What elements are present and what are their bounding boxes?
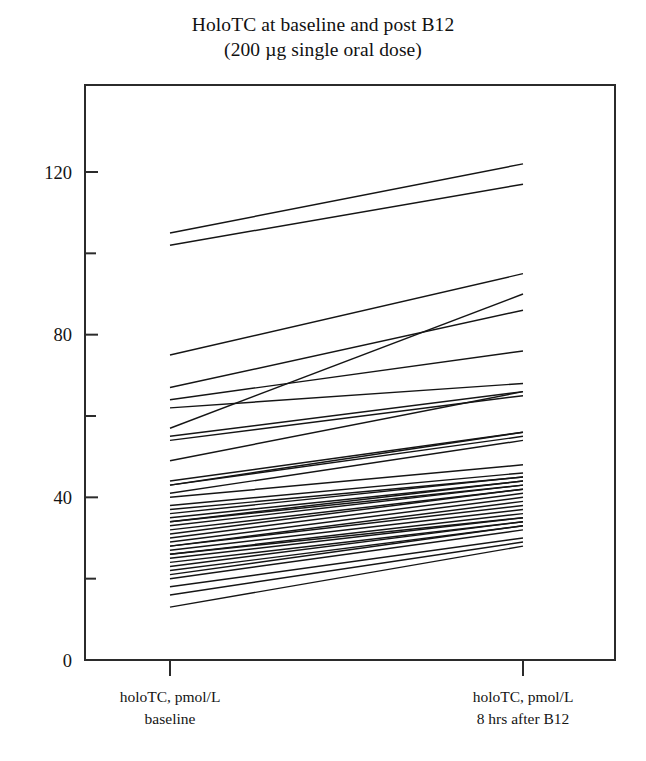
x-axis-left-label-line-1: holoTC, pmol/L <box>120 688 221 705</box>
y-tick-label: 0 <box>63 651 72 671</box>
subject-slope-line <box>170 392 523 437</box>
y-tick-label: 40 <box>54 488 73 508</box>
x-axis-right-label-line-2: 8 hrs after B12 <box>477 710 570 727</box>
subject-slope-line <box>170 440 523 493</box>
subject-slope-line <box>170 164 523 233</box>
slope-chart-plot: 04080120 holoTC, pmol/L baseline holoTC,… <box>0 0 646 761</box>
y-axis-ticks <box>85 172 98 660</box>
series-lines <box>170 164 523 607</box>
subject-slope-line <box>170 538 523 587</box>
subject-slope-line <box>170 546 523 607</box>
plot-frame <box>85 85 615 660</box>
subject-slope-line <box>170 184 523 245</box>
subject-slope-line <box>170 383 523 407</box>
subject-slope-line <box>170 530 523 579</box>
chart-figure: HoloTC at baseline and post B12 (200 µg … <box>0 0 646 761</box>
y-tick-label: 120 <box>44 163 72 183</box>
subject-slope-line <box>170 465 523 498</box>
y-tick-label: 80 <box>54 325 73 345</box>
x-axis-left-label-line-2: baseline <box>145 710 196 727</box>
subject-slope-line <box>170 392 523 461</box>
x-axis-right-label-line-1: holoTC, pmol/L <box>473 688 574 705</box>
x-axis-ticks <box>170 660 523 676</box>
y-axis-tick-labels: 04080120 <box>44 163 72 671</box>
